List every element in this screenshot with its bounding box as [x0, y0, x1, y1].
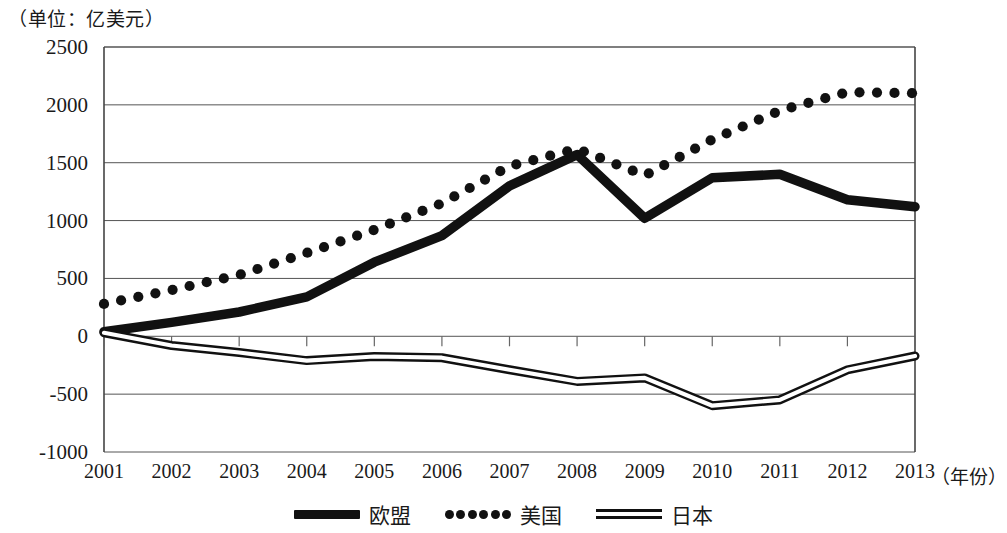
x-tick-label: 2010 [692, 460, 732, 483]
x-tick-label: 2007 [490, 460, 530, 483]
chart-legend: 欧盟美国日本 [0, 499, 1007, 529]
legend-swatch-icon [445, 510, 511, 519]
chart-canvas: 25002000150010005000-500-1000 2001200220… [0, 0, 1007, 533]
series-marker-1 [99, 299, 109, 309]
series-marker-1 [528, 155, 538, 165]
legend-swatch-icon [294, 510, 360, 519]
series-marker-1 [219, 273, 229, 283]
series-marker-1 [401, 212, 411, 222]
x-tick-label: 2004 [287, 460, 327, 483]
series-marker-1 [236, 269, 246, 279]
legend-item-2[interactable]: 日本 [596, 499, 713, 529]
series-marker-1 [872, 88, 882, 98]
series-marker-1 [385, 219, 395, 229]
legend-item-1[interactable]: 美国 [445, 499, 562, 529]
series-marker-1 [579, 146, 589, 156]
series-marker-1 [562, 146, 572, 156]
x-tick-label: 2006 [422, 460, 462, 483]
series-marker-1 [449, 191, 459, 201]
series-marker-1 [269, 259, 279, 269]
x-tick-label: 2009 [625, 460, 665, 483]
series-marker-1 [202, 277, 212, 287]
series-marker-1 [706, 135, 716, 145]
x-tick-label: 2005 [354, 460, 394, 483]
series-marker-1 [480, 175, 490, 185]
series-marker-1 [595, 153, 605, 163]
series-marker-1 [511, 159, 521, 169]
series-marker-1 [133, 292, 143, 302]
line-chart-plot [0, 0, 1007, 533]
series-marker-1 [675, 152, 685, 162]
chart-page: （单位：亿美元） 25002000150010005000-500-1000 2… [0, 0, 1007, 533]
series-marker-1 [659, 160, 669, 170]
series-marker-1 [319, 242, 329, 252]
legend-item-0[interactable]: 欧盟 [294, 499, 411, 529]
x-tick-label: 2003 [219, 460, 259, 483]
x-tick-label: 2002 [152, 460, 192, 483]
series-marker-1 [369, 225, 379, 235]
x-tick-label: 2001 [84, 460, 124, 483]
series-marker-1 [889, 88, 899, 98]
series-marker-1 [302, 248, 312, 258]
series-marker-1 [837, 89, 847, 99]
legend-label: 欧盟 [369, 499, 411, 529]
series-marker-1 [545, 151, 555, 161]
legend-label: 美国 [520, 499, 562, 529]
series-marker-1 [628, 166, 638, 176]
series-marker-1 [185, 281, 195, 291]
series-marker-1 [754, 115, 764, 125]
series-marker-1 [803, 98, 813, 108]
series-marker-1 [352, 231, 362, 241]
legend-label: 日本 [671, 499, 713, 529]
series-marker-1 [644, 168, 654, 178]
x-tick-label: 2008 [557, 460, 597, 483]
x-tick-label: 2011 [760, 460, 799, 483]
series-marker-1 [465, 183, 475, 193]
series-marker-1 [786, 102, 796, 112]
series-marker-1 [168, 285, 178, 295]
series-marker-1 [495, 166, 505, 176]
series-marker-1 [116, 295, 126, 305]
series-marker-1 [738, 121, 748, 131]
x-tick-label: 2012 [827, 460, 867, 483]
series-marker-1 [611, 159, 621, 169]
x-axis-title: （年份） [931, 462, 1007, 489]
series-marker-1 [252, 264, 262, 274]
series-marker-1 [722, 128, 732, 138]
legend-swatch-icon [596, 509, 662, 519]
series-marker-1 [286, 253, 296, 263]
series-line-0 [104, 155, 915, 332]
series-marker-1 [854, 87, 864, 97]
x-tick-label: 2013 [895, 460, 935, 483]
series-marker-1 [434, 199, 444, 209]
series-marker-1 [690, 144, 700, 154]
series-marker-1 [335, 236, 345, 246]
series-marker-1 [150, 288, 160, 298]
series-marker-1 [770, 108, 780, 118]
series-marker-1 [820, 93, 830, 103]
series-marker-1 [907, 88, 917, 98]
series-marker-1 [417, 206, 427, 216]
